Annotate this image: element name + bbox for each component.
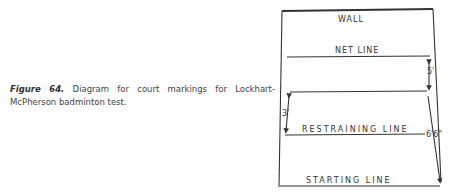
restraining-line xyxy=(285,134,425,135)
dimension-6ft6in-label: 6'6" xyxy=(426,130,442,139)
starting-line-label: STARTING LINE xyxy=(306,176,392,185)
wall-label: WALL xyxy=(338,15,364,24)
court-diagram: WALL NET LINE RESTRAINING LINE STARTING … xyxy=(0,0,463,193)
dimension-3ft-label: 3' xyxy=(282,109,289,118)
left-side-line xyxy=(279,11,282,187)
net-line-label: NET LINE xyxy=(335,46,379,55)
wall-line xyxy=(282,9,433,11)
net-line xyxy=(287,56,430,57)
reference-line xyxy=(290,91,427,92)
dimension-5ft-label: 5' xyxy=(427,67,434,76)
restraining-line-label: RESTRAINING LINE xyxy=(302,125,409,134)
